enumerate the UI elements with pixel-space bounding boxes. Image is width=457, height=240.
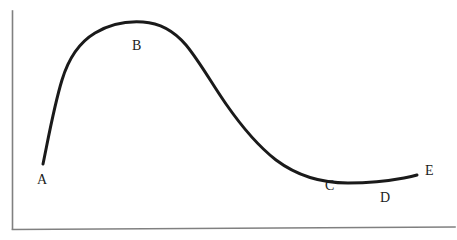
point-label-d: D [380, 191, 390, 205]
curve-group [43, 22, 417, 183]
point-label-a: A [37, 173, 47, 187]
curve-figure: A B C D E [0, 0, 457, 240]
point-label-e: E [425, 164, 434, 178]
point-label-c: C [325, 179, 334, 193]
point-label-b: B [132, 39, 141, 53]
x-axis-line [13, 227, 456, 230]
data-curve [43, 22, 417, 183]
